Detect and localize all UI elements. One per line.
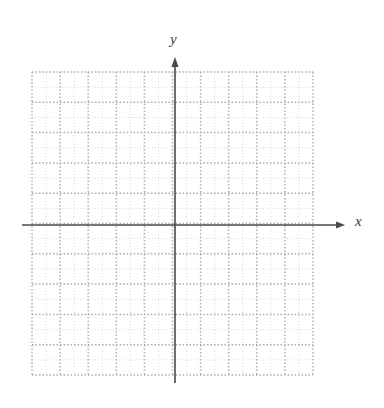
x-axis-label: x xyxy=(355,214,362,229)
axes-lines xyxy=(22,57,345,383)
coordinate-grid-figure: x y xyxy=(0,0,384,408)
y-axis-label: y xyxy=(170,32,177,47)
x-axis-arrowhead-icon xyxy=(336,221,345,228)
y-axis-arrowhead-icon xyxy=(171,57,178,67)
coordinate-plane-canvas xyxy=(0,0,384,408)
